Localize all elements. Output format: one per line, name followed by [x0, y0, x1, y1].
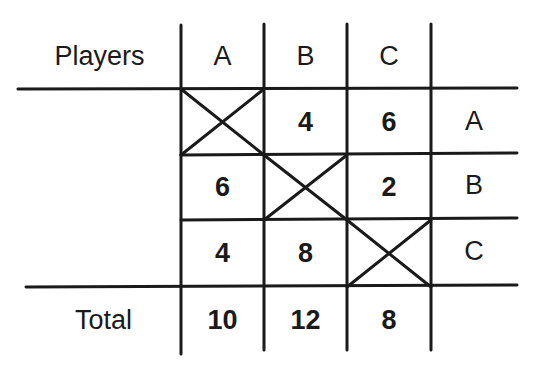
total-label: Total [26, 287, 181, 353]
cell-c-b: 8 [264, 220, 347, 287]
total-a: 10 [181, 287, 264, 353]
total-c: 8 [347, 287, 431, 353]
row-label-b: B [431, 153, 517, 218]
cell-a-b: 4 [264, 89, 347, 155]
cell-b-a: 6 [181, 155, 264, 220]
column-header-b: B [264, 24, 347, 88]
row-label-a: A [431, 89, 517, 153]
row-label-c: C [431, 218, 517, 285]
cell-c-a: 4 [181, 220, 264, 287]
players-score-table: Players A B C 4 6 A 6 2 B 4 8 C Total 10… [0, 0, 536, 375]
column-header-a: A [181, 24, 264, 88]
column-header-c: C [347, 24, 431, 88]
cell-b-c: 2 [347, 155, 431, 220]
corner-label: Players [18, 24, 181, 88]
cell-a-c: 6 [347, 89, 431, 155]
total-b: 12 [264, 287, 347, 353]
